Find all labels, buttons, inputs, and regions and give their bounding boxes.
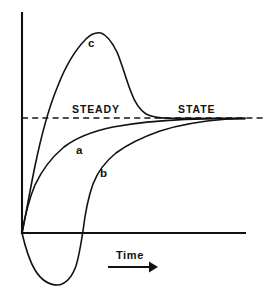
curve-label-c: c — [88, 38, 94, 50]
curve-c — [22, 33, 245, 233]
curve-label-a: a — [76, 145, 82, 157]
transient-response-figure: STEADY STATE c a b Time — [0, 0, 270, 299]
x-axis-label: Time — [116, 250, 144, 261]
time-arrow-head — [149, 262, 158, 273]
curve-label-b: b — [100, 168, 107, 180]
steady-state-label-left: STEADY — [72, 104, 120, 115]
steady-state-label-right: STATE — [178, 104, 215, 115]
curve-a — [22, 118, 245, 233]
